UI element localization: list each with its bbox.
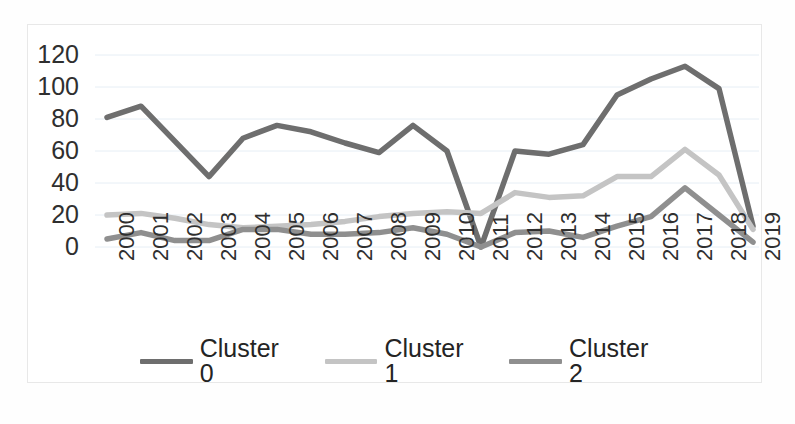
y-axis-tick-40: 40	[28, 170, 79, 195]
x-axis-tick-2005: 2005	[286, 212, 308, 261]
chart-plot-frame: 020406080100120 200020012002200320042005…	[27, 24, 762, 383]
legend-label-cluster-0: Cluster 0	[200, 336, 291, 386]
x-axis-tick-2001: 2001	[150, 212, 172, 261]
x-axis-tick-2002: 2002	[184, 212, 206, 261]
legend-swatch-cluster-2	[509, 359, 562, 364]
x-axis-tick-2017: 2017	[694, 212, 716, 261]
x-axis-tick-2018: 2018	[728, 212, 750, 261]
x-axis-tick-2011: 2011	[490, 214, 512, 261]
x-axis-tick-2014: 2014	[592, 212, 614, 261]
y-axis-tick-60: 60	[28, 138, 79, 163]
x-axis-tick-2010: 2010	[456, 212, 478, 261]
x-axis-tick-2000: 2000	[116, 212, 138, 261]
x-axis-tick-2004: 2004	[252, 212, 274, 261]
line-chart: 020406080100120 200020012002200320042005…	[0, 0, 795, 424]
legend-item-cluster-2[interactable]: Cluster 2	[509, 336, 660, 386]
x-axis-tick-2007: 2007	[354, 212, 376, 261]
legend-swatch-cluster-1	[325, 359, 378, 364]
legend-swatch-cluster-0	[140, 359, 193, 364]
chart-plot-area	[28, 25, 761, 382]
y-axis-tick-20: 20	[28, 202, 79, 227]
x-axis-tick-2012: 2012	[524, 212, 546, 261]
y-axis-tick-80: 80	[28, 106, 79, 131]
chart-legend: Cluster 0 Cluster 1 Cluster 2	[140, 344, 660, 378]
x-axis-tick-2013: 2013	[558, 212, 580, 261]
x-axis-tick-2016: 2016	[660, 212, 682, 261]
y-axis-tick-120: 120	[28, 42, 79, 67]
legend-item-cluster-0[interactable]: Cluster 0	[140, 336, 291, 386]
legend-label-cluster-2: Cluster 2	[569, 336, 660, 386]
legend-label-cluster-1: Cluster 1	[384, 336, 475, 386]
x-axis-tick-2015: 2015	[626, 212, 648, 261]
x-axis-tick-2006: 2006	[320, 212, 342, 261]
legend-item-cluster-1[interactable]: Cluster 1	[325, 336, 476, 386]
y-axis-tick-100: 100	[28, 74, 79, 99]
x-axis-tick-2009: 2009	[422, 212, 444, 261]
x-axis-tick-2003: 2003	[218, 212, 240, 261]
y-axis-tick-0: 0	[28, 234, 79, 259]
x-axis-tick-2019: 2019	[762, 212, 784, 261]
x-axis-tick-2008: 2008	[388, 212, 410, 261]
